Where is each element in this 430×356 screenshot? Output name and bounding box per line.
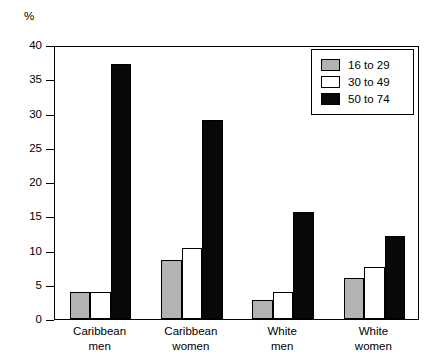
x-axis-labels: CaribbeanmenCaribbeanwomenWhitemenWhitew…	[54, 324, 419, 356]
bar-3-1	[252, 300, 273, 319]
x-axis-label-2: Caribbeanwomen	[145, 324, 236, 353]
y-axis-tick-label: 0	[14, 314, 42, 326]
y-axis-tick	[46, 286, 54, 287]
bar-1-2	[90, 292, 111, 319]
y-axis-tick-label: 20	[14, 177, 42, 189]
bar-4-2	[364, 267, 385, 319]
bar-2-3	[202, 120, 223, 319]
legend-item-50-to-74: 50 to 74	[312, 91, 413, 107]
bar-4-3	[385, 236, 406, 319]
y-axis-tick-label: 15	[14, 211, 42, 223]
y-axis-tick-label: 40	[14, 40, 42, 52]
bar-1-3	[111, 64, 132, 319]
legend-item-16-to-29: 16 to 29	[312, 57, 413, 73]
bar-3-2	[273, 292, 294, 319]
y-axis-tick	[46, 46, 54, 47]
x-axis-label-4: Whitewomen	[328, 324, 419, 353]
y-axis-tick	[46, 217, 54, 218]
legend-swatch-16-to-29	[321, 59, 340, 71]
y-axis-tick	[46, 80, 54, 81]
y-axis-tick	[46, 149, 54, 150]
x-axis-label-3: Whitemen	[237, 324, 328, 353]
bar-4-1	[344, 278, 365, 319]
y-axis-tick	[46, 252, 54, 253]
legend-swatch-50-to-74	[321, 93, 340, 105]
y-axis-tick-label: 5	[14, 280, 42, 292]
y-axis-tick-label: 35	[14, 74, 42, 86]
y-axis-tick-label: 30	[14, 109, 42, 121]
bar-1-1	[70, 292, 91, 319]
legend-label-30-to-49: 30 to 49	[348, 76, 390, 88]
y-axis-unit-label: %	[24, 10, 34, 23]
bar-3-3	[293, 212, 314, 319]
bar-chart: % 0510152025303540 CaribbeanmenCaribbean…	[0, 0, 430, 356]
legend-swatch-30-to-49	[321, 76, 340, 88]
bar-2-2	[182, 248, 203, 319]
legend-label-50-to-74: 50 to 74	[348, 93, 390, 105]
chart-legend: 16 to 29 30 to 49 50 to 74	[311, 49, 414, 115]
y-axis-tick	[46, 115, 54, 116]
legend-item-30-to-49: 30 to 49	[312, 74, 413, 90]
legend-label-16-to-29: 16 to 29	[348, 59, 390, 71]
y-axis-tick	[46, 183, 54, 184]
bar-2-1	[161, 260, 182, 319]
y-axis-tick-label: 25	[14, 143, 42, 155]
y-axis-tick	[46, 320, 54, 321]
y-axis-tick-label: 10	[14, 246, 42, 258]
x-axis-label-1: Caribbeanmen	[54, 324, 145, 353]
